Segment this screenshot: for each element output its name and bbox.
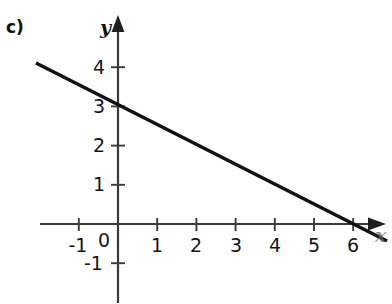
x-axis — [40, 218, 386, 231]
x-tick-label-0: 0 — [93, 231, 115, 250]
x-tick-label-3: 3 — [225, 236, 247, 255]
y-tick-label--1: -1 — [77, 254, 110, 273]
x-tick-label-6: 6 — [342, 236, 364, 255]
x-tick-label-4: 4 — [264, 236, 286, 255]
x-axis-label: x — [375, 226, 386, 245]
y-tick-label-4: 4 — [88, 58, 110, 77]
x-tick-label-1: 1 — [146, 236, 168, 255]
graph-figure: c) — [0, 0, 392, 304]
y-axis-label: y — [100, 18, 111, 37]
x-tick-label-5: 5 — [303, 236, 325, 255]
x-tick-label--1: -1 — [59, 236, 97, 255]
y-tick-label-1: 1 — [88, 175, 110, 194]
y-axis-arrowhead — [112, 15, 125, 32]
y-tick-label-2: 2 — [88, 136, 110, 155]
y-tick-label-3: 3 — [88, 97, 110, 116]
coordinate-plane — [0, 0, 392, 304]
y-axis — [112, 15, 125, 303]
x-tick-label-2: 2 — [185, 236, 207, 255]
